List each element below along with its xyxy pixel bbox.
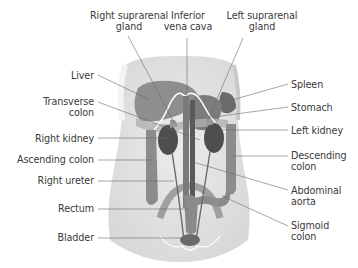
label-abdominal-aorta: Abdominal aorta: [291, 185, 341, 207]
label-right-kidney: Right kidney: [0, 133, 94, 144]
bladder-shape: [180, 234, 200, 246]
rectum-shape: [184, 195, 198, 234]
right-kidney-shape: [158, 125, 178, 155]
label-ascending-colon: Ascending colon: [0, 154, 94, 165]
label-rectum: Rectum: [0, 203, 94, 214]
label-right-ureter: Right ureter: [0, 175, 94, 186]
label-inferior-vena-cava: Inferior vena cava: [160, 10, 216, 32]
label-liver: Liver: [0, 70, 94, 81]
label-sigmoid-colon: Sigmoid colon: [291, 220, 329, 242]
label-descending-colon: Descending colon: [291, 150, 346, 172]
descending-colon-shape: [226, 124, 236, 195]
label-transverse-colon: Transverse colon: [0, 96, 94, 118]
abdominal-aorta-shape: [190, 100, 195, 204]
inferior-vena-cava-shape: [183, 96, 189, 208]
label-bladder: Bladder: [0, 232, 94, 243]
left-kidney-shape: [204, 123, 224, 153]
label-left-suprarenal-gland: Left suprarenal gland: [222, 10, 302, 32]
label-left-kidney: Left kidney: [291, 125, 343, 136]
ascending-colon-shape: [146, 130, 158, 205]
label-stomach: Stomach: [291, 102, 333, 113]
label-spleen: Spleen: [291, 79, 323, 90]
